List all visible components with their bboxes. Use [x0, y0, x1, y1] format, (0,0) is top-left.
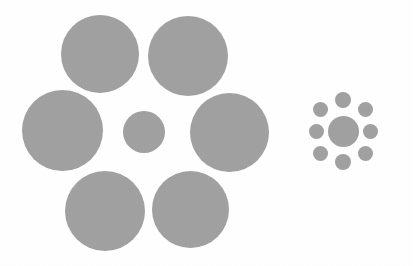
center-target-circle-right — [328, 116, 359, 147]
inducer-w — [309, 124, 324, 139]
right-configuration-group — [0, 0, 413, 266]
inducer-e — [363, 124, 378, 139]
inducer-s — [335, 154, 351, 170]
inducer-se — [358, 146, 373, 161]
inducer-sw — [313, 146, 328, 161]
inducer-n — [335, 92, 351, 108]
inducer-ne — [358, 102, 373, 117]
inducer-nw — [313, 102, 328, 117]
illusion-canvas — [0, 0, 413, 266]
